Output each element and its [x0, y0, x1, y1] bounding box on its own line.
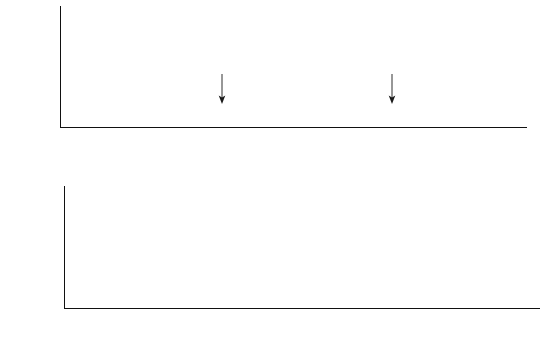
- canvas-background: [0, 0, 555, 341]
- figure-container: [0, 0, 555, 341]
- chart-svg: [0, 0, 555, 341]
